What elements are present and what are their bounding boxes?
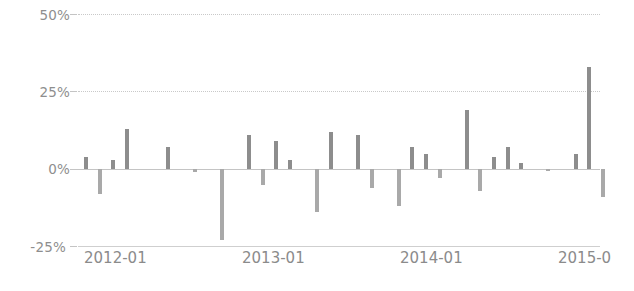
bar [546, 169, 550, 171]
bar [601, 169, 605, 197]
y-axis-label-neg25: -25% [4, 239, 66, 255]
gridline-25 [78, 91, 600, 92]
bar [519, 163, 523, 169]
bar [397, 169, 401, 206]
plot-area [78, 0, 600, 291]
y-axis-label-50: 50% [8, 7, 70, 23]
bar [315, 169, 319, 212]
bar [125, 129, 129, 169]
gridline-neg25 [78, 246, 600, 247]
bar [288, 160, 292, 169]
bar [274, 141, 278, 169]
x-axis-label-2014-01: 2014-01 [400, 249, 463, 267]
bar [478, 169, 482, 191]
x-axis-label-2013-01: 2013-01 [242, 249, 305, 267]
bar [84, 157, 88, 169]
bar [465, 110, 469, 169]
bar [111, 160, 115, 169]
bar [438, 169, 442, 178]
y-tick-mark-25 [70, 91, 77, 92]
bar [166, 147, 170, 169]
bar [492, 157, 496, 169]
x-axis-label-2012-01: 2012-01 [84, 249, 147, 267]
bar [98, 169, 102, 194]
bar [506, 147, 510, 169]
y-tick-mark-neg25 [70, 246, 77, 247]
bar [261, 169, 265, 185]
bar [410, 147, 414, 169]
zero-baseline [72, 169, 600, 170]
bar [193, 169, 197, 172]
y-axis-label-0: 0% [8, 161, 70, 177]
bar [247, 135, 251, 169]
bar [356, 135, 360, 169]
bar [574, 154, 578, 170]
bar-chart: 50% 25% 0% -25% 2012-01 2013-01 2014-01 … [0, 0, 634, 291]
bar [424, 154, 428, 170]
y-axis-label-25: 25% [8, 84, 70, 100]
gridline-50 [78, 14, 600, 15]
bar [587, 67, 591, 169]
bar [329, 132, 333, 169]
bar [370, 169, 374, 188]
x-axis-label-2015-0: 2015-0 [558, 249, 611, 267]
y-tick-mark-50 [70, 14, 77, 15]
bar [220, 169, 224, 240]
